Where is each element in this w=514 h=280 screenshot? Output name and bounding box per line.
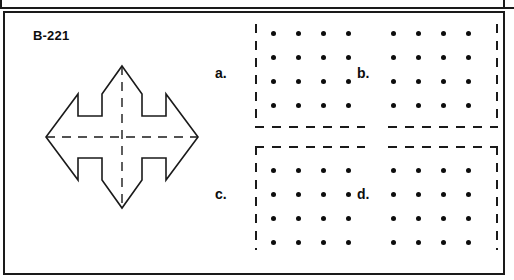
dot <box>271 55 276 60</box>
dot <box>391 79 396 84</box>
dot <box>466 55 471 60</box>
option-d-label[interactable]: d. <box>356 186 370 202</box>
dot <box>271 192 276 197</box>
dot <box>296 55 301 60</box>
dot <box>346 79 351 84</box>
dot <box>346 103 351 108</box>
option-d-dashed-top-edge <box>388 146 498 148</box>
dot <box>346 240 351 245</box>
dot <box>391 103 396 108</box>
dot <box>416 31 421 36</box>
dot <box>466 31 471 36</box>
option-b-dashed-right-edge <box>496 24 498 128</box>
top-strip-left-edge <box>0 0 2 9</box>
dot <box>466 103 471 108</box>
option-a-panel[interactable] <box>255 24 365 128</box>
dot <box>441 216 446 221</box>
option-b-panel[interactable] <box>388 24 498 128</box>
option-c-dashed-top-edge <box>255 146 365 148</box>
dot <box>296 168 301 173</box>
dot <box>416 79 421 84</box>
dot <box>466 168 471 173</box>
option-d-panel[interactable] <box>388 146 498 250</box>
dot <box>416 168 421 173</box>
dot <box>391 168 396 173</box>
dot <box>296 240 301 245</box>
dot <box>271 216 276 221</box>
dot <box>416 216 421 221</box>
option-b-label[interactable]: b. <box>356 65 370 81</box>
dot <box>416 240 421 245</box>
dot <box>296 103 301 108</box>
dot <box>271 168 276 173</box>
dot <box>416 103 421 108</box>
dot <box>321 31 326 36</box>
dot <box>391 216 396 221</box>
dot <box>346 55 351 60</box>
dot <box>271 79 276 84</box>
option-c-label[interactable]: c. <box>215 186 227 202</box>
dot <box>321 216 326 221</box>
dot <box>296 31 301 36</box>
dot <box>321 240 326 245</box>
dot <box>321 103 326 108</box>
dot <box>321 192 326 197</box>
dot <box>441 31 446 36</box>
dot <box>321 79 326 84</box>
dot <box>296 192 301 197</box>
dot <box>321 168 326 173</box>
dot <box>466 79 471 84</box>
option-a-label[interactable]: a. <box>215 65 227 81</box>
dot <box>346 216 351 221</box>
dot <box>391 55 396 60</box>
worksheet-page: B-221 <box>0 0 514 280</box>
dot <box>271 103 276 108</box>
dot <box>441 240 446 245</box>
dot <box>466 216 471 221</box>
dot <box>296 216 301 221</box>
problem-id-label: B-221 <box>33 28 69 43</box>
dot <box>271 240 276 245</box>
star-figure <box>38 58 210 218</box>
dot <box>391 240 396 245</box>
dot <box>346 31 351 36</box>
dot <box>441 79 446 84</box>
dot <box>416 192 421 197</box>
star-figure-svg <box>38 58 210 218</box>
option-a-dashed-left-edge <box>255 24 257 128</box>
dot <box>391 31 396 36</box>
option-c-panel[interactable] <box>255 146 365 250</box>
dot <box>466 192 471 197</box>
dot <box>441 192 446 197</box>
dot <box>321 55 326 60</box>
dot <box>466 240 471 245</box>
dot <box>441 103 446 108</box>
option-a-dashed-bottom-edge <box>255 126 365 128</box>
dot <box>391 192 396 197</box>
dot <box>441 168 446 173</box>
dot <box>346 192 351 197</box>
dot <box>271 31 276 36</box>
option-c-dashed-left-edge <box>255 146 257 250</box>
dot <box>416 55 421 60</box>
dot <box>441 55 446 60</box>
top-strip-right-edge <box>503 0 505 9</box>
page-top-strip <box>0 0 514 9</box>
option-b-dashed-bottom-edge <box>388 126 498 128</box>
dot <box>296 79 301 84</box>
dot <box>346 168 351 173</box>
option-d-dashed-right-edge <box>496 146 498 250</box>
